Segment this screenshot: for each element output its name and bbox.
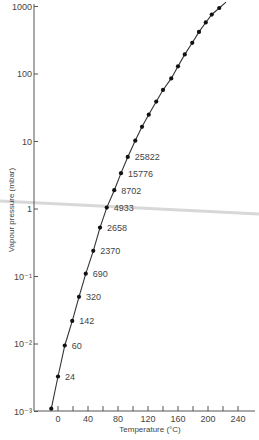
point-label: 15776 — [128, 169, 153, 179]
point-label: 4933 — [114, 203, 134, 213]
x-tick-label: 160 — [170, 414, 185, 424]
data-point — [161, 88, 165, 92]
data-point — [210, 12, 214, 16]
y-tick-label: 10⁻¹ — [14, 272, 32, 282]
point-label: 690 — [93, 269, 108, 279]
point-label: 320 — [86, 292, 101, 302]
data-point — [154, 100, 158, 104]
vapour-pressure-chart: 100010010110⁻¹10⁻²10⁻³04080120160200240 … — [0, 0, 259, 440]
y-axis-title: Vapour pressure (mbar) — [7, 168, 16, 253]
data-point — [217, 6, 221, 10]
x-axis-title: Temperature (°C) — [119, 425, 181, 434]
data-point — [77, 295, 81, 299]
point-label: 142 — [79, 316, 94, 326]
x-tick-label: 120 — [140, 414, 155, 424]
x-tick-label: 80 — [113, 414, 123, 424]
data-point — [204, 20, 208, 24]
y-tick-label: 10 — [22, 137, 32, 147]
point-label: 60 — [72, 341, 82, 351]
point-annotations: 246014232069023702658493387021577625822 — [65, 152, 160, 382]
data-point — [176, 64, 180, 68]
data-point — [56, 374, 60, 378]
data-point — [84, 272, 88, 276]
data-point — [91, 249, 95, 253]
x-tick-label: 40 — [83, 414, 93, 424]
y-tick-label: 100 — [17, 69, 32, 79]
y-tick-label: 1000 — [12, 2, 32, 12]
data-point — [147, 113, 151, 117]
data-point — [169, 76, 173, 80]
point-label: 2370 — [100, 246, 120, 256]
x-tick-label: 200 — [200, 414, 215, 424]
data-point — [70, 319, 74, 323]
point-label: 8702 — [121, 186, 141, 196]
data-point — [197, 30, 201, 34]
point-label: 25822 — [135, 152, 160, 162]
data-point — [133, 139, 137, 143]
data-point — [63, 343, 67, 347]
point-label: 24 — [65, 372, 75, 382]
data-point — [190, 41, 194, 45]
y-tick-label: 10⁻² — [14, 339, 32, 349]
data-point — [105, 205, 109, 209]
data-point — [119, 171, 123, 175]
data-point — [112, 188, 116, 192]
x-tick-label: 0 — [55, 414, 60, 424]
data-point — [140, 125, 144, 129]
point-label: 2658 — [107, 223, 127, 233]
x-tick-label: 240 — [230, 414, 245, 424]
y-tick-label: 1 — [27, 204, 32, 214]
data-point — [98, 226, 102, 230]
data-point — [183, 52, 187, 56]
data-point — [49, 407, 53, 411]
data-point — [126, 155, 130, 159]
y-tick-label: 10⁻³ — [14, 407, 32, 417]
